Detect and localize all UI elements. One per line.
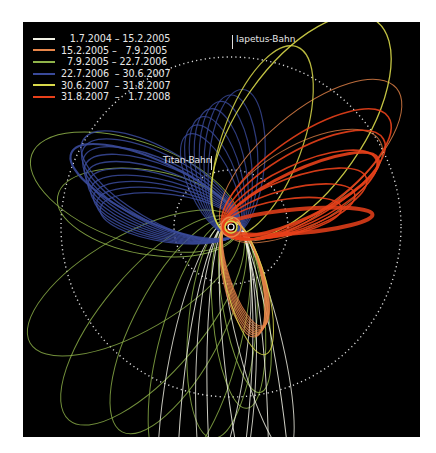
legend-swatch [33, 61, 55, 63]
legend-item: 31.8.2007 – 1.7.2008 [33, 91, 170, 103]
legend-swatch [33, 49, 55, 51]
legend: 1.7.2004 – 15.2.200515.2.2005 – 7.9.2005… [33, 33, 170, 103]
legend-item: 1.7.2004 – 15.2.2005 [33, 33, 170, 45]
titan-orbit [174, 170, 288, 284]
legend-item: 15.2.2005 – 7.9.2005 [33, 45, 170, 57]
legend-item: 7.9.2005 – 22.7.2006 [33, 56, 170, 68]
titan-orbit-label: Titan-Bahn [163, 155, 212, 165]
legend-swatch [33, 73, 55, 75]
legend-label: 15.2.2005 – 7.9.2005 [61, 45, 167, 56]
legend-swatch [33, 96, 55, 98]
saturn-icon [228, 224, 234, 230]
legend-label: 22.7.2006 – 30.6.2007 [61, 68, 170, 79]
legend-swatch [33, 38, 55, 40]
iapetus-orbit-label: Iapetus-Bahn [236, 34, 295, 44]
legend-item: 30.6.2007 – 31.8.2007 [33, 79, 170, 91]
legend-swatch [33, 84, 55, 86]
legend-label: 30.6.2007 – 31.8.2007 [61, 80, 170, 91]
iapetus-label-tick [232, 35, 233, 49]
orbit-diagram: 1.7.2004 – 15.2.200515.2.2005 – 7.9.2005… [23, 22, 420, 437]
legend-item: 22.7.2006 – 30.6.2007 [33, 68, 170, 80]
legend-label: 7.9.2005 – 22.7.2006 [61, 56, 167, 67]
legend-label: 31.8.2007 – 1.7.2008 [61, 91, 170, 102]
legend-label: 1.7.2004 – 15.2.2005 [61, 33, 170, 44]
